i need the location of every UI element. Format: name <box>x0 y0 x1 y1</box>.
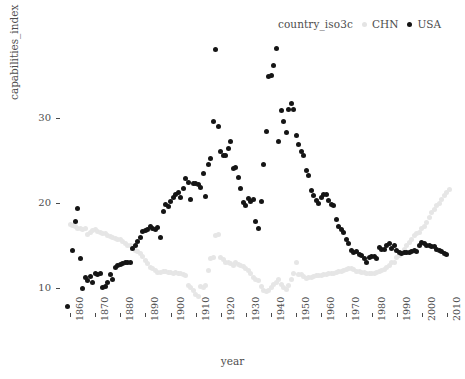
data-point-usa <box>70 248 75 253</box>
data-point-usa <box>143 228 148 233</box>
data-point-usa <box>181 186 186 191</box>
data-point-chn <box>286 283 291 288</box>
data-point-usa <box>427 243 432 248</box>
data-point-usa <box>221 153 226 158</box>
data-point-usa <box>130 246 135 251</box>
data-point-usa <box>316 201 321 206</box>
data-point-chn <box>85 232 90 237</box>
data-point-chn <box>344 267 349 272</box>
data-point-chn <box>291 271 296 276</box>
data-point-usa <box>166 204 171 209</box>
data-point-usa <box>78 256 83 261</box>
data-point-chn <box>301 274 306 279</box>
data-point-chn <box>145 261 150 266</box>
data-point-usa <box>321 192 326 197</box>
data-point-usa <box>153 227 158 232</box>
data-point-usa <box>274 46 279 51</box>
data-point-usa <box>120 261 125 266</box>
legend-label-chn: CHN <box>372 18 398 30</box>
data-point-usa <box>173 192 178 197</box>
chart-root: country_iso3c CHN USA 102030 18601870188… <box>0 0 465 379</box>
data-point-chn <box>399 250 404 255</box>
data-point-usa <box>439 249 444 254</box>
data-point-usa <box>206 162 211 167</box>
data-point-usa <box>246 196 251 201</box>
data-point-chn <box>123 241 128 246</box>
data-point-chn <box>261 288 266 293</box>
data-point-usa <box>419 240 424 245</box>
data-point-chn <box>98 230 103 235</box>
data-point-usa <box>80 286 85 291</box>
data-point-usa <box>379 247 384 252</box>
data-point-usa <box>231 166 236 171</box>
x-tick-label: 1910 <box>200 297 211 321</box>
data-point-chn <box>110 235 115 240</box>
data-point-usa <box>123 260 128 265</box>
y-tick-mark <box>56 203 60 204</box>
data-point-chn <box>153 268 158 273</box>
data-point-usa <box>176 190 181 195</box>
data-point-chn <box>299 272 304 277</box>
data-point-chn <box>269 285 274 290</box>
x-tick-mark <box>346 313 347 317</box>
data-point-chn <box>231 263 236 268</box>
data-point-usa <box>155 225 160 230</box>
data-point-chn <box>354 269 359 274</box>
data-point-usa <box>161 209 166 214</box>
data-point-chn <box>434 203 439 208</box>
data-point-chn <box>133 248 138 253</box>
data-point-chn <box>243 266 248 271</box>
data-point-usa <box>256 226 261 231</box>
legend-item-chn[interactable]: CHN <box>362 18 398 30</box>
data-point-chn <box>432 207 437 212</box>
x-tick-mark <box>120 313 121 317</box>
x-tick-label: 1960 <box>325 297 336 321</box>
data-point-usa <box>95 272 100 277</box>
data-point-chn <box>281 285 286 290</box>
data-point-chn <box>163 269 168 274</box>
data-point-chn <box>90 228 95 233</box>
data-point-usa <box>228 139 233 144</box>
data-point-chn <box>236 262 241 267</box>
data-point-chn <box>412 233 417 238</box>
data-point-chn <box>186 283 191 288</box>
data-point-chn <box>155 270 160 275</box>
data-point-usa <box>351 250 356 255</box>
x-tick-label: 1980 <box>376 297 387 321</box>
data-point-chn <box>444 190 449 195</box>
data-point-chn <box>437 201 442 206</box>
data-point-usa <box>346 241 351 246</box>
x-tick-mark <box>95 313 96 317</box>
data-point-usa <box>213 47 218 52</box>
data-point-usa <box>216 124 221 129</box>
data-point-chn <box>419 226 424 231</box>
x-tick-label: 2010 <box>451 297 462 321</box>
data-point-chn <box>309 275 314 280</box>
x-tick-mark <box>271 313 272 317</box>
data-point-chn <box>83 226 88 231</box>
data-point-chn <box>427 215 432 220</box>
legend-item-usa[interactable]: USA <box>407 18 441 30</box>
data-point-usa <box>402 250 407 255</box>
data-point-chn <box>407 240 412 245</box>
x-axis-title: year <box>0 355 465 367</box>
data-point-usa <box>404 250 409 255</box>
data-point-chn <box>311 274 316 279</box>
data-point-usa <box>108 272 113 277</box>
data-point-usa <box>331 203 336 208</box>
data-point-chn <box>414 231 419 236</box>
chart-legend: country_iso3c CHN USA <box>278 18 441 30</box>
data-point-usa <box>442 251 447 256</box>
data-point-usa <box>163 202 168 207</box>
data-point-usa <box>289 101 294 106</box>
data-point-usa <box>422 241 427 246</box>
data-point-usa <box>100 285 105 290</box>
data-point-chn <box>68 222 73 227</box>
data-point-usa <box>374 256 379 261</box>
data-point-chn <box>389 260 394 265</box>
data-point-usa <box>319 195 324 200</box>
x-tick-label: 1880 <box>124 297 135 321</box>
data-point-usa <box>367 255 372 260</box>
data-point-chn <box>135 249 140 254</box>
data-point-chn <box>364 271 369 276</box>
